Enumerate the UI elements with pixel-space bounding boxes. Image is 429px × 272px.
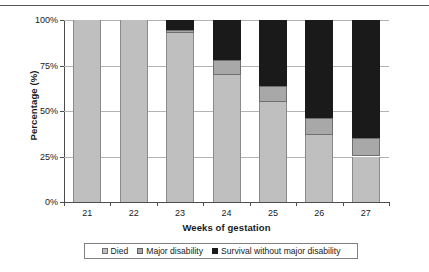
x-tick-mark [64,202,65,206]
bar-segment-major-disability-24[interactable] [213,60,241,75]
x-axis-title: Weeks of gestation [64,222,389,233]
y-tick-label: 25% [40,152,58,162]
bar-stack-26[interactable] [305,20,333,202]
chart-figure: Percentage (%) 0%25%50%75%100% 212223242… [0,0,429,272]
x-tick-label-21: 21 [82,208,92,218]
x-tick-mark [250,202,251,206]
bar-segment-died-24[interactable] [213,75,241,202]
bar-segment-died-23[interactable] [166,33,194,202]
x-tick-mark [296,202,297,206]
bar-segment-survival-24[interactable] [213,20,241,60]
legend-entry-2[interactable]: Survival without major disability [212,246,340,256]
y-tick-mark [60,111,64,112]
legend-entry-0[interactable]: Died [102,246,129,256]
bar-stack-25[interactable] [259,20,287,202]
legend-label: Died [111,246,129,256]
y-tick-label: 75% [40,61,58,71]
x-tick-mark [343,202,344,206]
bar-segment-survival-25[interactable] [259,20,287,86]
x-tick-label-25: 25 [268,208,278,218]
x-tick-label-23: 23 [175,208,185,218]
x-axis-line [64,202,390,203]
bar-segment-survival-26[interactable] [305,20,333,118]
bar-segment-major-disability-26[interactable] [305,118,333,134]
legend-entry-1[interactable]: Major disability [137,246,203,256]
x-tick-label-26: 26 [314,208,324,218]
bar-stack-22[interactable] [120,20,148,202]
y-tick-label: 100% [35,15,58,25]
legend-label: Major disability [146,246,203,256]
bar-segment-died-27[interactable] [352,157,380,203]
survival-swatch-icon [212,248,218,254]
bar-segment-died-21[interactable] [73,20,101,202]
x-tick-mark [203,202,204,206]
x-tick-mark [157,202,158,206]
chart-legend: DiedMajor disabilitySurvival without maj… [84,243,358,259]
y-tick-mark [60,157,64,158]
bar-segment-died-25[interactable] [259,102,287,202]
legend-label: Survival without major disability [221,246,340,256]
bar-stack-24[interactable] [213,20,241,202]
x-tick-label-27: 27 [361,208,371,218]
x-tick-mark [389,202,390,206]
x-tick-label-22: 22 [129,208,139,218]
major-disability-swatch-icon [137,248,143,254]
bar-stack-21[interactable] [73,20,101,202]
bar-segment-major-disability-25[interactable] [259,86,287,102]
bar-segment-died-22[interactable] [120,20,148,202]
y-tick-label: 0% [45,197,58,207]
died-swatch-icon [102,248,108,254]
bar-segment-survival-27[interactable] [352,20,380,138]
x-tick-label-24: 24 [221,208,231,218]
bar-stack-23[interactable] [166,20,194,202]
plot-area: 0%25%50%75%100% 21222324252627 [64,20,389,202]
bar-segment-survival-23[interactable] [166,20,194,30]
y-tick-mark [60,66,64,67]
bar-stack-27[interactable] [352,20,380,202]
bar-segment-major-disability-23[interactable] [166,30,194,33]
y-tick-mark [60,20,64,21]
y-tick-label: 50% [40,106,58,116]
top-divider-rule [0,5,429,6]
x-tick-mark [110,202,111,206]
bar-segment-major-disability-27[interactable] [352,138,380,156]
y-axis-title: Percentage (%) [28,26,39,186]
bar-segment-died-26[interactable] [305,135,333,202]
